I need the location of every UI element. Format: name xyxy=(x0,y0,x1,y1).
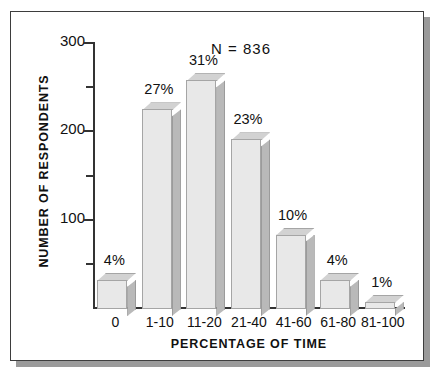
y-axis-tick-label: 100 xyxy=(39,209,85,226)
bar-front-face xyxy=(231,139,261,309)
bar-value-label: 4% xyxy=(79,252,149,268)
bar-side-face xyxy=(127,280,136,316)
figure-frame: N = 836 NUMBER OF RESPONDENTS 100200300 … xyxy=(10,11,424,361)
x-axis-tick-label: 81-100 xyxy=(348,314,418,330)
bar-value-label: 23% xyxy=(213,111,283,127)
y-axis-major-tick xyxy=(84,130,93,132)
bar-front-face xyxy=(142,109,172,309)
bar-series: 4%27%31%23%10%4%1% xyxy=(93,42,405,309)
bar xyxy=(186,80,216,309)
bar xyxy=(231,139,261,309)
x-axis-tick-labels: 01-1011-2021-4041-6061-8081-100 xyxy=(93,312,405,334)
bar-side-face xyxy=(306,235,315,316)
y-axis-minor-tick xyxy=(86,175,93,177)
bar-side-face xyxy=(261,139,270,316)
y-axis-major-tick xyxy=(84,219,93,221)
chart-plot-area: N = 836 NUMBER OF RESPONDENTS 100200300 … xyxy=(11,12,425,362)
y-axis-minor-tick xyxy=(86,86,93,88)
bar-front-face xyxy=(320,280,350,309)
bar-front-face xyxy=(97,280,127,309)
y-axis-tick-label: 200 xyxy=(39,120,85,137)
y-axis-major-tick xyxy=(84,42,93,44)
bar-value-label: 4% xyxy=(302,252,372,268)
bar-front-face xyxy=(186,80,216,309)
bar xyxy=(320,280,350,309)
bar-value-label: 10% xyxy=(258,207,328,223)
x-axis-title: PERCENTAGE OF TIME xyxy=(93,337,405,351)
bar xyxy=(365,302,395,309)
bar-value-label: 31% xyxy=(168,52,238,68)
bar xyxy=(142,109,172,309)
bar-front-face xyxy=(365,302,395,309)
bar-front-face xyxy=(276,235,306,309)
bar-side-face xyxy=(172,109,181,316)
y-axis-tick-labels: 100200300 xyxy=(31,12,85,362)
bar xyxy=(97,280,127,309)
y-axis-tick-label: 300 xyxy=(39,32,85,49)
bar xyxy=(276,235,306,309)
bar-value-label: 1% xyxy=(347,274,417,290)
bar-value-label: 27% xyxy=(124,81,194,97)
